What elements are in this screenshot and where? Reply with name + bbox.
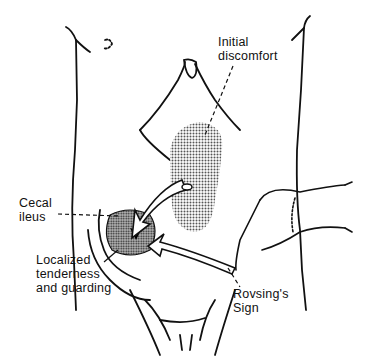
initial-discomfort-region bbox=[170, 122, 222, 232]
right-rib-margin bbox=[195, 64, 240, 130]
label-cecal-ileus: Cecal ileus bbox=[19, 196, 52, 224]
left-rib-margin bbox=[140, 62, 185, 130]
leader-initial-discomfort bbox=[205, 66, 233, 135]
label-line: Initial bbox=[218, 35, 278, 49]
left-shoulder-line bbox=[66, 27, 90, 52]
label-line: Localized bbox=[36, 253, 111, 267]
hand-top bbox=[260, 185, 345, 200]
right-body-outline bbox=[297, 28, 306, 310]
label-line: Cecal bbox=[19, 196, 52, 210]
label-initial-discomfort: Initial discomfort bbox=[218, 35, 278, 63]
label-line: and guarding bbox=[36, 281, 111, 295]
label-line: ileus bbox=[19, 210, 52, 224]
label-line: Sign bbox=[233, 301, 289, 315]
illustration-drawing bbox=[0, 0, 368, 364]
label-rovsings-sign: Rovsing's Sign bbox=[233, 287, 289, 315]
label-localized-tenderness: Localized tenderness and guarding bbox=[36, 253, 111, 295]
label-line: Rovsing's bbox=[233, 287, 289, 301]
label-line: discomfort bbox=[218, 49, 278, 63]
hand-bottom bbox=[262, 227, 345, 250]
right-shoulder-line bbox=[292, 16, 310, 40]
rovsing-arrow bbox=[148, 234, 235, 274]
label-line: tenderness bbox=[36, 267, 111, 281]
left-nipple bbox=[104, 40, 112, 49]
abdomen-illustration: Initial discomfort Cecal ileus Localized… bbox=[0, 0, 368, 364]
